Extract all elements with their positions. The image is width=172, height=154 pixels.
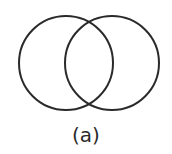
diagram-caption: (a) (0, 122, 172, 148)
